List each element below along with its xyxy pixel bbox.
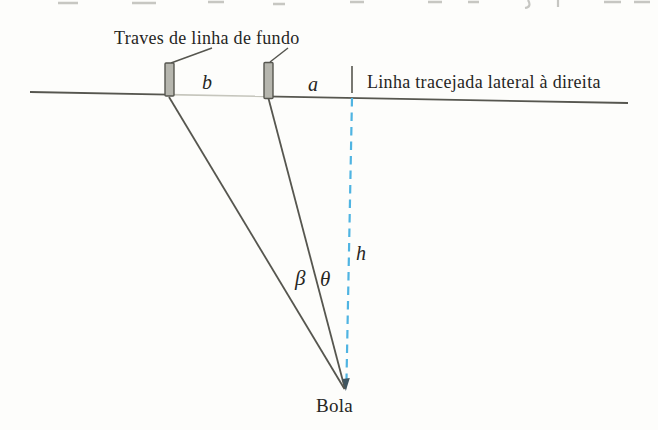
leader-line-right-post bbox=[270, 48, 288, 62]
segment-a-label: a bbox=[308, 74, 318, 94]
goal-posts-caption: Traves de linha de fundo bbox=[114, 29, 300, 47]
goal-line-left-segment bbox=[30, 92, 169, 95]
leader-line-left-post bbox=[171, 48, 212, 63]
goal-post-left bbox=[165, 63, 174, 96]
soccer-angle-diagram: Traves de linha de fundo Linha tracejada… bbox=[0, 0, 658, 430]
goal-line-between-posts bbox=[169, 95, 264, 97]
goal-post-right bbox=[264, 63, 273, 99]
dashed-height-line bbox=[347, 98, 353, 379]
height-h-label: h bbox=[356, 243, 366, 263]
angle-theta-label: θ bbox=[320, 269, 330, 290]
cropped-text-fragments bbox=[58, 0, 650, 8]
sight-line-left-post-to-ball bbox=[169, 97, 345, 389]
sideline-caption: Linha tracejada lateral à direita bbox=[367, 73, 601, 91]
diagram-linework bbox=[0, 0, 658, 430]
sight-line-right-post-to-ball bbox=[269, 99, 346, 390]
goal-line-right-segment bbox=[264, 96, 628, 103]
ball-label: Bola bbox=[316, 396, 353, 415]
segment-b-label: b bbox=[202, 72, 212, 92]
angle-beta-label: β bbox=[295, 268, 305, 289]
